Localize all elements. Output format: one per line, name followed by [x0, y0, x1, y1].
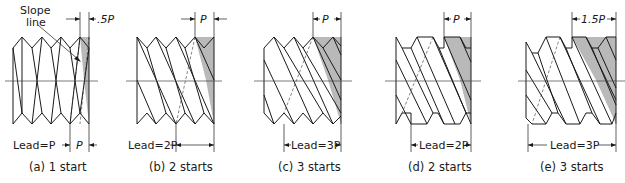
panel-b-caption: (b) 2 starts — [149, 160, 213, 174]
panel-d-shaded-region — [444, 37, 471, 124]
panel-a-callout-line: line — [26, 16, 46, 29]
panel-b-lead-label: Lead=2P — [128, 139, 178, 152]
panel-a-caption: (a) 1 start — [29, 160, 87, 174]
panel-c-lead-label: Lead=3P — [291, 139, 341, 152]
panel-c-top-dim: P — [322, 13, 329, 26]
panel-d-caption: (d) 2 starts — [408, 160, 472, 174]
panel-b-top-dim: P — [200, 13, 207, 26]
dim-arrow-icon — [89, 17, 94, 21]
panel-b-shaded-region — [195, 37, 214, 124]
panel-b: P Lead=2P (b) 2 starts — [126, 12, 227, 174]
panel-e-lead-label: Lead=3P — [550, 139, 600, 152]
dim-arrow-icon — [75, 17, 80, 21]
panel-d-top-dim: P — [453, 13, 460, 26]
panel-a-top-dim: .5P — [97, 13, 114, 26]
panel-c: P Lead=3P (c) 3 starts — [254, 12, 352, 174]
panel-d-lead-label: Lead=2P — [419, 139, 469, 152]
panel-a-lead-label: Lead=P — [13, 139, 56, 152]
panel-e-caption: (e) 3 starts — [540, 160, 603, 174]
panel-a-bottom-dim: P — [76, 139, 83, 152]
thread-lead-diagram: Slope line .5P P Lead=P (a) 1 start — [0, 0, 625, 183]
panel-c-caption: (c) 3 starts — [278, 160, 341, 174]
panel-e-top-dim: 1.5P — [581, 13, 605, 26]
panel-a-top-crests — [13, 37, 89, 48]
panel-a: Slope line .5P P Lead=P (a) 1 start — [5, 4, 114, 174]
panel-e: 1.5P Lead=3P (e) 3 starts — [518, 12, 625, 174]
panel-d: P Lead=2P (d) 2 starts — [385, 12, 481, 174]
